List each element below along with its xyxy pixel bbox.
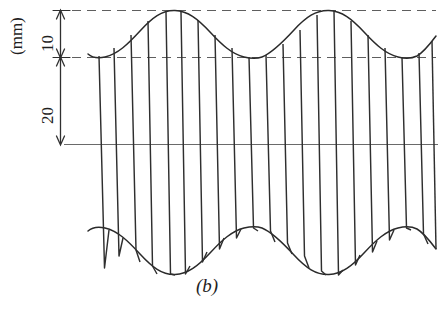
spike-1	[99, 56, 109, 268]
zigzag-spikes	[99, 11, 436, 275]
oscillation-trace-drawing	[0, 0, 444, 315]
spike-19	[402, 57, 411, 230]
figure-container: (mm) 10 20 (b)	[0, 0, 444, 315]
spike-6	[181, 12, 190, 274]
spike-8	[215, 35, 224, 249]
spike-4	[148, 21, 157, 274]
lower-envelope-curve	[88, 227, 436, 275]
spike-12	[283, 44, 292, 254]
spike-7	[198, 20, 207, 262]
spike-15	[334, 11, 343, 275]
unit-label: (mm)	[4, 6, 30, 66]
dimension-label-10: 10	[38, 16, 58, 52]
spike-11	[266, 55, 275, 242]
spike-20	[419, 53, 428, 244]
spike-3	[131, 35, 140, 262]
spike-9	[232, 48, 241, 238]
figure-caption: (b)	[196, 275, 218, 297]
spike-2	[114, 48, 123, 256]
dimension-label-20: 20	[38, 80, 58, 124]
upper-envelope-curve	[88, 10, 436, 58]
spike-5	[166, 12, 175, 275]
spike-17	[368, 35, 377, 252]
spike-13	[300, 30, 309, 268]
